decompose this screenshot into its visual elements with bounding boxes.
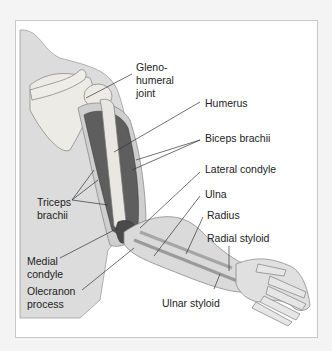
label-humerus: Humerus [205, 97, 248, 109]
label-radial-styloid: Radial styloid [207, 232, 269, 244]
label-radius: Radius [207, 209, 240, 221]
label-triceps-line2: brachii [37, 209, 68, 221]
label-glenohumeral-line1: Gleno- [136, 61, 168, 73]
label-olecranon-line1: Olecranon [27, 285, 75, 297]
label-medial-condyle-line1: Medial [27, 255, 58, 267]
forearm-skin [124, 217, 250, 293]
label-ulna: Ulna [205, 188, 227, 200]
label-triceps-line1: Triceps [37, 196, 71, 208]
label-lateral-condyle: Lateral condyle [205, 163, 276, 175]
label-ulnar-styloid: Ulnar styloid [162, 297, 220, 309]
label-biceps-brachii: Biceps brachii [205, 132, 270, 144]
label-medial-condyle-line2: condyle [27, 268, 63, 280]
label-glenohumeral-line2: humeral [136, 74, 174, 86]
label-glenohumeral-line3: joint [136, 87, 155, 99]
label-olecranon-line2: process [27, 298, 64, 310]
